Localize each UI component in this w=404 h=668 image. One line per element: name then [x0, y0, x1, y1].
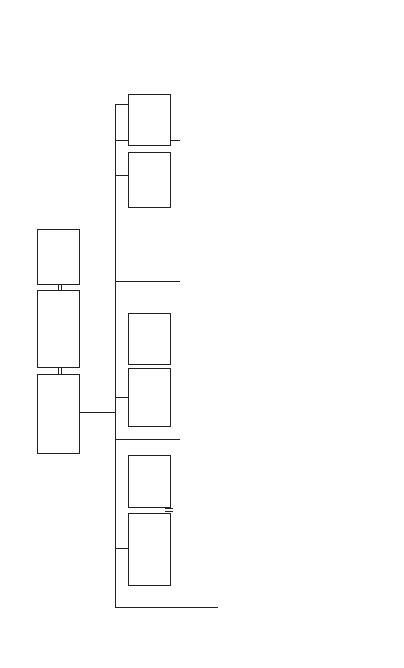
connector [115, 104, 129, 105]
connector [80, 412, 116, 413]
person-willie-m-brown[interactable] [128, 313, 171, 365]
connector [115, 397, 129, 398]
person-paralee-price[interactable] [128, 94, 171, 146]
person-samuel[interactable] [128, 513, 171, 586]
connector [115, 607, 218, 608]
person-laura-price[interactable] [128, 455, 171, 508]
marriage-connector [58, 367, 62, 375]
person-nathan-shorter-sr[interactable] [37, 290, 80, 368]
marriage-connector [58, 284, 62, 291]
connector [115, 281, 180, 282]
marriage-connector [165, 508, 173, 512]
person-nathan-jr[interactable] [128, 152, 171, 208]
person-betsie[interactable] [37, 374, 80, 454]
person-william[interactable] [128, 368, 171, 427]
connector [115, 175, 129, 176]
connector [115, 548, 129, 549]
connector [115, 104, 116, 608]
connector [115, 439, 180, 440]
person-annie-ellison[interactable] [37, 229, 80, 285]
